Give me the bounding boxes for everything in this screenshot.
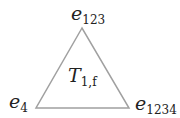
triangle-face [36,28,129,108]
vertex-label-top: e123 [71,2,105,27]
vertex-label-bottom-right: e1234 [135,92,177,117]
triangle-diagram: e123 e4 e1234 T1,f [0,0,180,118]
vertex-label-bottom-left: e4 [9,90,28,115]
face-label: T1,f [68,64,98,89]
